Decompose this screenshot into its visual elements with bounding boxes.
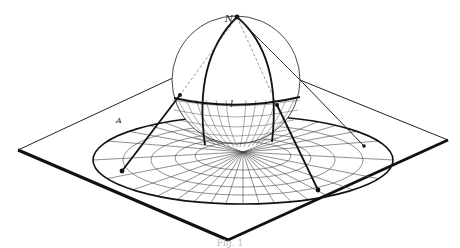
sphere-point-left (178, 93, 182, 97)
north-pole-point (235, 15, 240, 20)
label-north-pole: N (224, 14, 234, 24)
sphere (172, 16, 303, 147)
figure-caption: Fig. 1 (0, 238, 460, 248)
label-disk-a: A (115, 116, 122, 125)
sphere-point-right (275, 103, 279, 107)
plane-point-far (362, 144, 366, 148)
label-circle-l: l (230, 98, 233, 109)
plane-point-left (120, 169, 125, 174)
plane-point-right (316, 188, 321, 193)
